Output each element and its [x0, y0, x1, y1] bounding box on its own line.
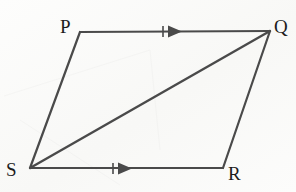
vertex-label-p: P	[60, 17, 71, 36]
vertex-label-s: S	[6, 160, 17, 179]
vertex-label-q: Q	[274, 17, 288, 36]
vertex-label-r: R	[228, 164, 241, 183]
parallelogram-svg	[0, 0, 296, 192]
paper-background	[0, 0, 296, 192]
geometry-figure: Network plays the ACHILLES	[0, 0, 296, 192]
